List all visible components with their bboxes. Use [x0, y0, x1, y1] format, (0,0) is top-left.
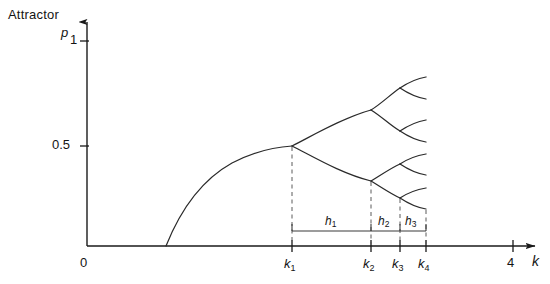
x-tick-label-0: 0	[80, 256, 87, 269]
x-axis-title: k	[532, 254, 539, 268]
x-label-k3-sub: 3	[399, 263, 404, 273]
x-label-k3: k3	[392, 257, 404, 273]
interval-label-h1: h1	[325, 215, 336, 229]
bifurcation-guide-lines	[292, 147, 426, 244]
x-label-k2: k2	[363, 257, 375, 273]
x-label-k1: k1	[284, 257, 296, 273]
branch-3-f	[400, 164, 426, 175]
y-tick-label-0-5: 0.5	[52, 138, 70, 151]
interval-label-h3: h3	[405, 215, 416, 229]
interval-label-h2: h2	[378, 215, 389, 229]
bifurcation-diagram-figure: Attractor p 1 0.5 0 4 k k1 k2 k3 k4 h1 h…	[0, 0, 550, 284]
x-label-k2-sub: 2	[370, 263, 375, 273]
branch-2-lower-b	[371, 181, 400, 198]
branch-2-upper-a	[371, 88, 400, 110]
branch-3-a	[400, 77, 426, 88]
branch-3-h	[400, 198, 426, 209]
branch-3-b	[400, 88, 426, 99]
interval-label-h2-base: h	[378, 214, 385, 228]
x-tick-label-4: 4	[507, 256, 514, 269]
branch-2-lower-a	[371, 164, 400, 181]
branch-2-upper-b	[371, 110, 400, 131]
y-tick-label-1: 1	[70, 33, 77, 46]
branch-1-upper	[292, 110, 371, 146]
y-axis-title: Attractor	[8, 8, 59, 21]
interval-label-h3-base: h	[405, 214, 412, 228]
x-label-k4: k4	[418, 257, 430, 273]
branch-3-g	[400, 188, 426, 198]
interval-label-h1-base: h	[325, 214, 332, 228]
x-label-k4-sub: 4	[425, 263, 430, 273]
y-axis-variable-label: p	[61, 26, 68, 39]
interval-label-h3-sub: 3	[412, 219, 417, 229]
branch-3-c	[400, 120, 426, 131]
bifurcation-plot	[0, 0, 550, 284]
x-label-k1-sub: 1	[291, 263, 296, 273]
branch-primary	[166, 146, 292, 246]
branch-3-e	[400, 154, 426, 164]
interval-label-h2-sub: 2	[385, 219, 390, 229]
branch-1-lower	[292, 146, 371, 181]
interval-label-h1-sub: 1	[332, 219, 337, 229]
axis-lines	[87, 22, 535, 246]
branch-3-d	[400, 131, 426, 142]
